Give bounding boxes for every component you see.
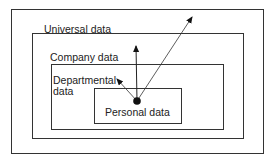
departmental-data-label-line2: data (53, 86, 73, 97)
data-scope-diagram (0, 0, 277, 160)
universal-data-label: Universal data (44, 24, 111, 35)
personal-data-label: Personal data (105, 107, 170, 118)
arrow-to-departmental (117, 79, 137, 101)
arrow-to-company (136, 46, 137, 101)
company-data-label: Company data (50, 52, 118, 63)
origin-dot (133, 97, 141, 105)
